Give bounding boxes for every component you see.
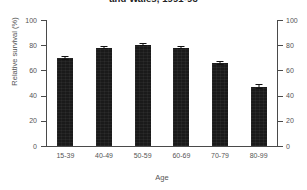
error-bar-cap-top — [255, 84, 262, 85]
y-axis-right-tick-label: 40 — [286, 92, 307, 99]
y-axis-right-tick — [278, 70, 283, 71]
error-bar-cap-bottom — [62, 59, 69, 60]
y-axis-left-tick — [41, 146, 46, 147]
error-bar-cap-bottom — [100, 48, 107, 49]
y-axis-right-tick-label: 80 — [286, 42, 307, 49]
x-axis-tick-label: 50-59 — [123, 152, 162, 160]
chart-title: and Wales, 1991-93 — [0, 0, 307, 4]
y-axis-right-tick — [278, 146, 283, 147]
bar[interactable] — [212, 63, 228, 146]
x-axis-tick-label: 15-39 — [46, 152, 85, 160]
x-axis-title: Age — [46, 173, 278, 182]
error-bar-cap-top — [178, 46, 185, 47]
y-axis-right-tick — [278, 45, 283, 46]
error-bar-cap-top — [62, 56, 69, 57]
bar-group — [123, 20, 162, 146]
bar-group — [239, 20, 278, 146]
y-axis-right-tick-label: 20 — [286, 117, 307, 124]
relative-survival-bar-chart: and Wales, 1991-93 020406080100 02040608… — [0, 0, 307, 190]
x-axis-tick-labels: 15-3940-4950-5960-6970-7980-99 — [46, 152, 278, 164]
y-axis-right-tick — [278, 96, 283, 97]
error-bar-cap-top — [216, 61, 223, 62]
x-axis-tick-label: 60-69 — [162, 152, 201, 160]
y-axis-title: Relative survival (%) — [10, 0, 19, 112]
bar-group — [85, 20, 124, 146]
bar-group — [162, 20, 201, 146]
error-bar-cap-bottom — [255, 88, 262, 89]
bar[interactable] — [57, 58, 73, 146]
y-axis-left-tick-label: 0 — [11, 143, 37, 150]
error-bar-cap-bottom — [178, 48, 185, 49]
y-axis-right-tick-label: 100 — [286, 17, 307, 24]
bars-layer — [46, 20, 278, 146]
bar[interactable] — [251, 87, 267, 146]
bar[interactable] — [96, 48, 112, 146]
x-axis-tick-label: 40-49 — [85, 152, 124, 160]
error-bar-cap-bottom — [139, 45, 146, 46]
error-bar-cap-top — [100, 46, 107, 47]
y-axis-right-tick-label: 0 — [286, 143, 307, 150]
x-axis-line — [46, 146, 278, 147]
error-bar-cap-bottom — [216, 64, 223, 65]
y-axis-right-tick-label: 60 — [286, 67, 307, 74]
bar[interactable] — [173, 48, 189, 146]
bar-group — [201, 20, 240, 146]
bar-group — [46, 20, 85, 146]
error-bar-cap-top — [139, 43, 146, 44]
x-axis-tick-label: 70-79 — [201, 152, 240, 160]
x-axis-tick-label: 80-99 — [239, 152, 278, 160]
y-axis-right-tick — [278, 121, 283, 122]
y-axis-right-tick — [278, 20, 283, 21]
bar[interactable] — [135, 45, 151, 146]
y-axis-left-tick-label: 20 — [11, 117, 37, 124]
